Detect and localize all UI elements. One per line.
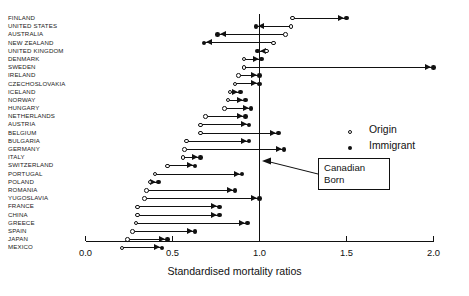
canadian-born-annotation: Canadian Born: [318, 158, 390, 190]
annotation-line-1: Canadian: [324, 162, 384, 174]
annotation-line-2: Born: [324, 174, 384, 186]
annotation-leader-line: [0, 0, 469, 296]
mortality-ratio-chart: FINLANDUNITED STATESAUSTRALIANEW ZEALAND…: [0, 0, 469, 296]
